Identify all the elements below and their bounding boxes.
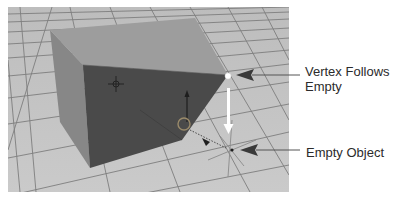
- empty-object-label: Empty Object: [306, 145, 384, 160]
- empty-label-line1: Empty Object: [306, 145, 384, 160]
- viewport-illustration: [0, 0, 393, 198]
- vertex-dot: [225, 73, 231, 79]
- vertex-label-line1: Vertex Follows: [305, 64, 390, 79]
- viewport: [8, 7, 289, 198]
- vertex-label-line2: Empty: [305, 79, 390, 94]
- vertex-follows-empty-label: Vertex Follows Empty: [305, 64, 390, 94]
